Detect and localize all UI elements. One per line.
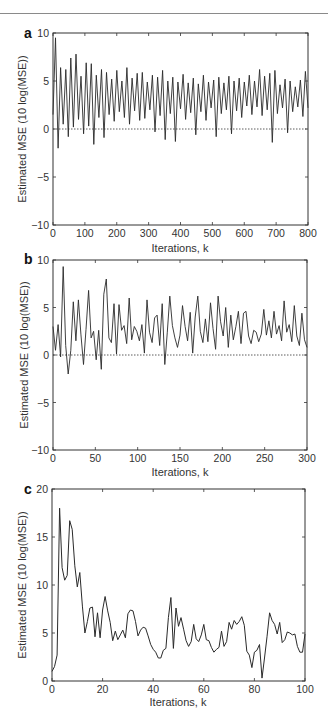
y-tick-label: 20: [36, 483, 48, 495]
x-tick-label: 40: [147, 683, 159, 695]
chart-panel-c: c Estimated MSE (10 log(MSE)) Iterations…: [0, 0, 328, 727]
y-tick-label: 10: [36, 579, 48, 591]
x-tick-label: 100: [296, 683, 314, 695]
x-axis-title: Iterations, k: [150, 696, 207, 708]
x-tick-label: 60: [198, 683, 210, 695]
x-tick-label: 80: [249, 683, 261, 695]
svg-text:Estimated MSE (10 log(MSE)): Estimated MSE (10 log(MSE)): [16, 511, 28, 658]
plot-area: 02040608010005101520: [36, 483, 314, 695]
y-axis-title: Estimated MSE (10 log(MSE)): [16, 511, 28, 658]
y-tick-label: 0: [42, 675, 48, 687]
y-tick-label: 15: [36, 531, 48, 543]
x-tick-label: 0: [49, 683, 55, 695]
mse-series-line: [52, 508, 305, 678]
panel-label-c: c: [24, 481, 32, 497]
axes-frame: [52, 489, 305, 681]
y-tick-label: 5: [42, 627, 48, 639]
x-tick-label: 20: [97, 683, 109, 695]
